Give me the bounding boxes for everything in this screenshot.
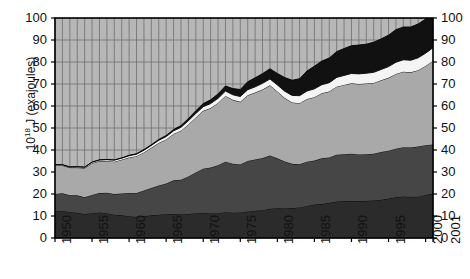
y-tick-label-right: 60 <box>441 99 470 112</box>
y-tick-label-left: 10 <box>17 209 47 222</box>
x-tick-label: 1965 <box>171 215 184 244</box>
y-tick-label-left: 30 <box>17 165 47 178</box>
x-tick-label: 1960 <box>134 215 147 244</box>
x-tick-label: 2000 <box>431 215 444 244</box>
stacked-area-chart-figure: n 1018 J (exajoules) 1009080706050403020… <box>0 0 470 279</box>
y-tick-label-left: 90 <box>17 33 47 46</box>
y-tick-label-right: 70 <box>441 77 470 90</box>
y-tick-label-right: 100 <box>441 11 470 24</box>
y-tick-label-right: 80 <box>441 55 470 68</box>
x-tick-label: 2001 <box>449 215 462 244</box>
y-tick-label-left: 100 <box>17 11 47 24</box>
x-tick-label: 1990 <box>356 215 369 244</box>
y-tick-label-left: 0 <box>17 231 47 244</box>
x-tick-label: 1975 <box>245 215 258 244</box>
y-tick-label-right: 90 <box>441 33 470 46</box>
y-tick-label-right: 50 <box>441 121 470 134</box>
x-tick-label: 1980 <box>282 215 295 244</box>
y-tick-label-left: 40 <box>17 143 47 156</box>
y-tick-label-left: 20 <box>17 187 47 200</box>
x-tick-label: 1955 <box>97 215 110 244</box>
y-tick-label-left: 70 <box>17 77 47 90</box>
x-tick-label: 1970 <box>208 215 221 244</box>
y-tick-label-right: 30 <box>441 165 470 178</box>
y-tick-label-left: 50 <box>17 121 47 134</box>
y-tick-label-right: 40 <box>441 143 470 156</box>
plot-top-mask <box>0 0 470 18</box>
y-tick-label-right: 20 <box>441 187 470 200</box>
x-tick-label: 1995 <box>394 215 407 244</box>
y-tick-label-left: 80 <box>17 55 47 68</box>
y-tick-label-left: 60 <box>17 99 47 112</box>
x-tick-label: 1950 <box>60 215 73 244</box>
x-tick-label: 1985 <box>319 215 332 244</box>
